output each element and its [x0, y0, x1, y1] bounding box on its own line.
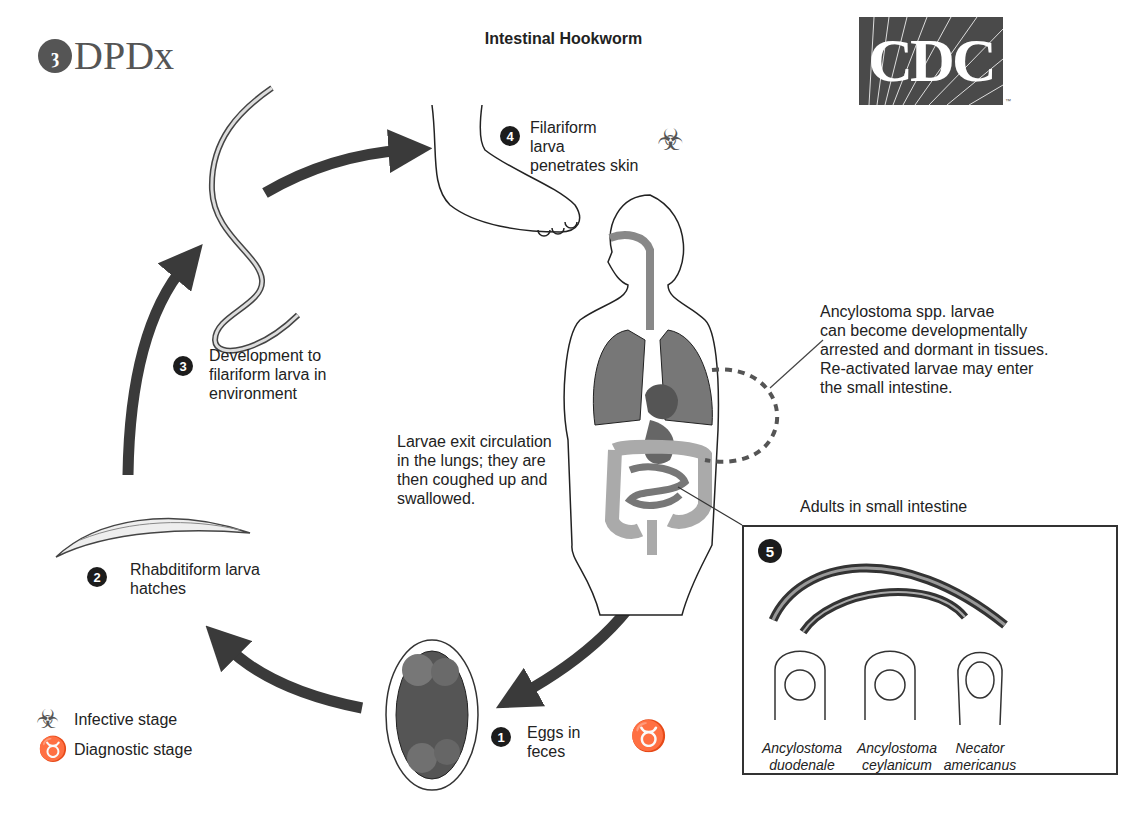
microscope-icon: ♉	[630, 718, 667, 753]
cdc-logo-text: CDC	[859, 25, 1003, 96]
biohazard-icon: ☣	[36, 704, 74, 735]
stage-2-label: Rhabditiform larvahatches	[130, 560, 260, 598]
stage-4-badge: 4	[500, 126, 520, 146]
stage-3-badge: 3	[173, 356, 193, 376]
annotation-pointer	[770, 340, 823, 388]
ancylostoma-annotation: Ancylostoma spp. larvaecan become develo…	[820, 302, 1049, 397]
stage-4-label: Filariformlarvapenetrates skin	[530, 118, 639, 175]
arrow-3-to-4	[265, 150, 405, 193]
biohazard-icon: ☣	[657, 122, 684, 157]
stage-5-title: Adults in small intestine	[800, 497, 967, 516]
adults-box	[742, 525, 1118, 775]
egg-drawing	[386, 640, 478, 790]
stage-3-label: Development tofilariform larva inenviron…	[209, 346, 326, 403]
legend-infective: ☣ Infective stage	[36, 704, 177, 735]
lungs-annotation: Larvae exit circulationin the lungs; the…	[397, 432, 552, 508]
filariform-larva-drawing	[212, 88, 298, 351]
stage-2-badge: 2	[87, 567, 107, 587]
stage-5-badge: 5	[758, 539, 782, 563]
trademark-symbol: ™	[1005, 98, 1011, 104]
cdc-logo: CDC	[859, 17, 1003, 105]
microscope-icon: ♉	[38, 735, 74, 763]
species-label-americanus: Necatoramericanus	[930, 740, 1030, 774]
rhabditiform-larva-drawing	[56, 518, 250, 557]
stage-1-label: Eggs infeces	[527, 723, 580, 761]
species-label-duodenale: Ancylostomaduodenale	[748, 740, 856, 774]
arrow-1-to-2	[225, 645, 362, 708]
stage-1-badge: 1	[491, 727, 511, 747]
legend-diagnostic: ♉ Diagnostic stage	[38, 735, 192, 763]
